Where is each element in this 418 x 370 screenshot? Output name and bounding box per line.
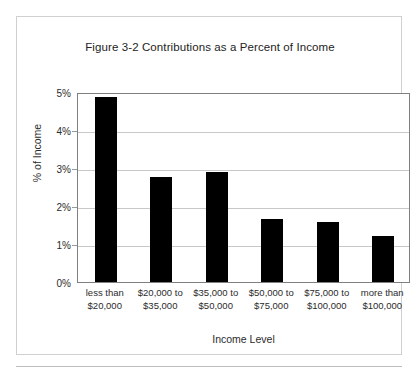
figure-page: Figure 3-2 Contributions as a Percent of… (0, 0, 418, 370)
y-axis-tick-label: 3% (41, 164, 71, 175)
bar-series (78, 94, 409, 282)
plot-area (77, 93, 410, 283)
y-axis-tick-label: 0% (41, 278, 71, 289)
y-axis-tick-label: 1% (41, 240, 71, 251)
bar (372, 236, 394, 282)
x-axis-tick-labels: less than$20,000$20,000 to$35,000$35,000… (77, 287, 410, 321)
page-divider (16, 366, 402, 367)
x-axis-tick-label: $50,000 to$75,000 (244, 287, 300, 312)
bar (95, 97, 117, 282)
chart-frame: Figure 3-2 Contributions as a Percent of… (16, 16, 402, 355)
x-axis-tick-label: $35,000 to$50,000 (188, 287, 244, 312)
x-axis-tick-label: less than$20,000 (77, 287, 133, 312)
bar (150, 177, 172, 282)
chart-title: Figure 3-2 Contributions as a Percent of… (17, 41, 403, 53)
x-axis-title: Income Level (77, 333, 410, 345)
y-axis-tick-labels: 0%1%2%3%4%5% (39, 93, 71, 283)
y-axis-tick-label: 4% (41, 126, 71, 137)
bar (261, 219, 283, 282)
y-axis-tick-label: 5% (41, 88, 71, 99)
y-axis-title: % of Income (31, 103, 43, 203)
y-axis-tick-label: 2% (41, 202, 71, 213)
x-axis-tick-label: $20,000 to$35,000 (133, 287, 189, 312)
bar (206, 172, 228, 282)
x-axis-tick-label: more than$100,000 (355, 287, 411, 312)
x-axis-tick-label: $75,000 to$100,000 (299, 287, 355, 312)
bar (317, 222, 339, 282)
